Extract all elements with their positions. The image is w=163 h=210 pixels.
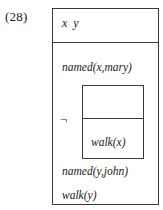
- condition-named-x-mary: named(x,mary): [62, 61, 132, 73]
- drs-figure: (28) x y named(x,mary) ¬ walk(x) named(y…: [0, 0, 163, 210]
- negation-symbol-icon: ¬: [60, 113, 67, 126]
- example-number-label: (28): [5, 9, 27, 25]
- nested-drs-universe: [83, 86, 143, 119]
- outer-drs-conditions: named(x,mary) ¬ walk(x) named(y,john) wa…: [53, 43, 158, 204]
- outer-drs-universe: x y: [53, 9, 158, 43]
- outer-drs-referents: x y: [62, 16, 80, 31]
- condition-walk-y: walk(y): [62, 189, 96, 201]
- nested-drs-conditions: walk(x): [83, 119, 143, 158]
- nested-drs-box: walk(x): [82, 85, 144, 159]
- condition-named-y-john: named(y,john): [62, 165, 128, 177]
- condition-walk-x: walk(x): [91, 136, 125, 148]
- outer-drs-box: x y named(x,mary) ¬ walk(x) named(y,john…: [52, 8, 159, 205]
